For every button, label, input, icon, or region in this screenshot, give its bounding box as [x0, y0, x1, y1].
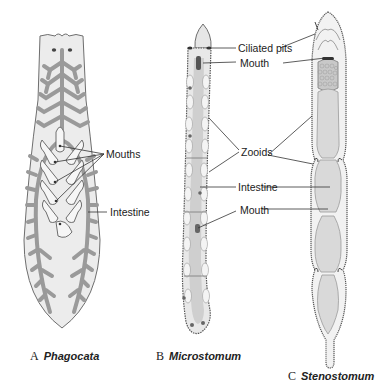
- label-intestine-bc: Intestine: [238, 181, 278, 193]
- caption-genus: Phagocata: [44, 350, 100, 362]
- caption-a: APhagocata: [30, 350, 99, 363]
- caption-letter: A: [30, 349, 39, 363]
- caption-c: CStenostomum: [288, 370, 374, 383]
- label-ciliated-pits: Ciliated pits: [238, 42, 292, 54]
- caption-b: BMicrostomum: [156, 350, 241, 363]
- label-mouths: Mouths: [106, 148, 140, 160]
- label-zooids: Zooids: [241, 146, 273, 158]
- label-intestine-a: Intestine: [110, 206, 150, 218]
- stenostomum-illustration: [0, 0, 381, 389]
- caption-letter: B: [156, 349, 164, 363]
- caption-letter: C: [288, 369, 296, 383]
- caption-genus: Microstomum: [169, 350, 241, 362]
- label-mouth-top: Mouth: [240, 57, 269, 69]
- figure-canvas: Mouths Intestine Ciliated pits Mouth Zoo…: [0, 0, 381, 389]
- caption-genus: Stenostomum: [301, 370, 374, 382]
- label-mouth-bottom: Mouth: [240, 204, 269, 216]
